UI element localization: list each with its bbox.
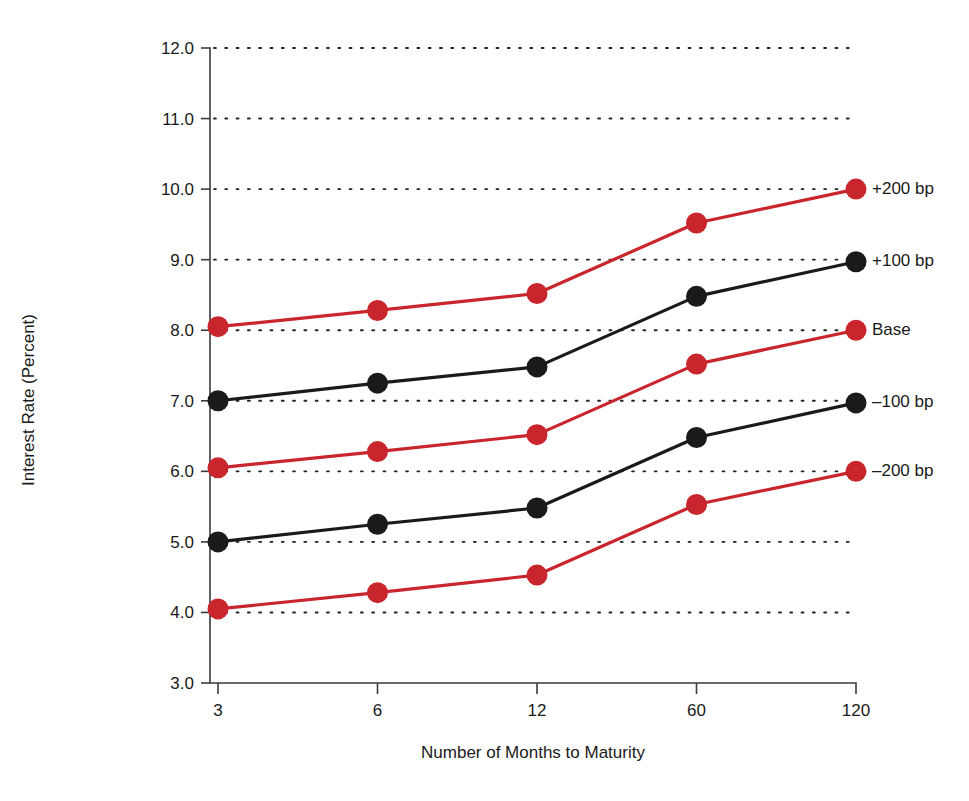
series-200-bp xyxy=(208,179,867,338)
data-point-marker xyxy=(686,212,707,233)
series-line xyxy=(218,189,856,327)
y-tick-label: 3.0 xyxy=(170,674,194,693)
data-point-marker xyxy=(367,300,388,321)
x-axis-title: Number of Months to Maturity xyxy=(421,743,645,762)
data-point-marker xyxy=(686,286,707,307)
x-tick-group: 361260120 xyxy=(213,683,870,720)
data-point-marker xyxy=(367,373,388,394)
data-point-marker xyxy=(846,251,867,272)
y-tick-label: 10.0 xyxy=(161,180,194,199)
data-point-marker xyxy=(367,514,388,535)
data-point-marker xyxy=(527,283,548,304)
data-point-marker xyxy=(527,565,548,586)
series-200-bp xyxy=(208,461,867,620)
y-tick-group: 3.04.05.06.07.08.09.010.011.012.0 xyxy=(161,39,210,693)
data-point-marker xyxy=(367,582,388,603)
series-group xyxy=(208,179,867,620)
series-100-bp xyxy=(208,392,867,552)
y-tick-label: 5.0 xyxy=(170,533,194,552)
data-point-marker xyxy=(527,356,548,377)
series-line xyxy=(218,262,856,401)
series-label: –100 bp xyxy=(872,392,933,411)
data-point-marker xyxy=(208,531,229,552)
data-point-marker xyxy=(527,498,548,519)
series-label: –200 bp xyxy=(872,461,933,480)
series-label: +200 bp xyxy=(872,179,934,198)
series-line xyxy=(218,471,856,609)
y-tick-label: 9.0 xyxy=(170,251,194,270)
data-point-marker xyxy=(208,316,229,337)
x-tick-label: 12 xyxy=(528,701,547,720)
series-line xyxy=(218,330,856,468)
data-point-marker xyxy=(367,441,388,462)
y-tick-label: 7.0 xyxy=(170,392,194,411)
x-tick-label: 3 xyxy=(213,701,222,720)
data-point-marker xyxy=(686,494,707,515)
series-line xyxy=(218,403,856,542)
data-point-marker xyxy=(208,457,229,478)
data-point-marker xyxy=(208,598,229,619)
y-tick-label: 8.0 xyxy=(170,321,194,340)
series-100-bp xyxy=(208,251,867,411)
gridlines-group xyxy=(214,48,858,612)
data-point-marker xyxy=(846,461,867,482)
chart-figure: 3.04.05.06.07.08.09.010.011.012.0 361260… xyxy=(0,0,969,801)
data-point-marker xyxy=(846,179,867,200)
x-tick-label: 60 xyxy=(687,701,706,720)
line-chart: 3.04.05.06.07.08.09.010.011.012.0 361260… xyxy=(0,0,969,801)
data-point-marker xyxy=(686,354,707,375)
y-tick-label: 6.0 xyxy=(170,462,194,481)
data-point-marker xyxy=(686,427,707,448)
series-label: +100 bp xyxy=(872,251,934,270)
y-tick-label: 4.0 xyxy=(170,603,194,622)
data-point-marker xyxy=(846,320,867,341)
y-tick-label: 11.0 xyxy=(162,110,194,129)
series-label: Base xyxy=(872,320,911,339)
data-point-marker xyxy=(527,424,548,445)
y-tick-label: 12.0 xyxy=(161,39,194,58)
y-axis-title: Interest Rate (Percent) xyxy=(19,314,38,486)
series-label-group: +200 bp+100 bpBase–100 bp–200 bp xyxy=(872,179,934,480)
data-point-marker xyxy=(846,392,867,413)
data-point-marker xyxy=(208,390,229,411)
x-tick-label: 6 xyxy=(373,701,382,720)
x-tick-label: 120 xyxy=(842,701,870,720)
series-base xyxy=(208,320,867,479)
